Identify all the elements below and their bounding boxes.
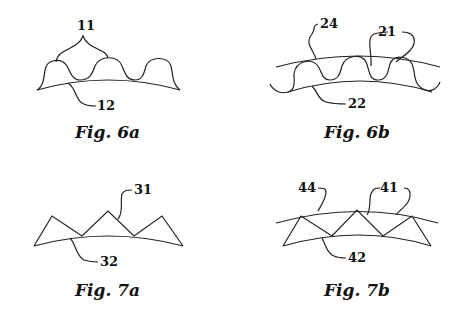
caption-fig-7a: Fig. 7a [74,280,140,300]
label-21: 21 [378,24,396,39]
leader-22 [312,86,346,104]
label-32: 32 [100,254,118,269]
figure-6a: 11 12 Fig. 6a [37,18,180,142]
leader-31 [118,190,132,219]
label-41: 41 [380,180,398,195]
figure-sheet: 11 12 Fig. 6a 24 21 22 Fig. 6b 31 32 Fig… [0,0,458,311]
inner-arc-42 [283,235,431,246]
leader-11 [56,36,108,62]
base-arc-32 [34,236,183,246]
label-11: 11 [77,18,95,33]
caption-fig-7b: Fig. 7b [323,280,390,300]
figure-7b: 44 41 42 Fig. 7b [276,180,438,300]
label-22: 22 [348,96,366,111]
leader-24 [309,24,318,59]
label-42: 42 [348,250,366,265]
leader-42 [322,238,346,258]
label-24: 24 [320,16,338,31]
leader-32 [70,238,98,262]
inner-arc-22 [288,81,432,92]
caption-fig-6b: Fig. 6b [323,122,390,142]
label-12: 12 [97,98,115,113]
leader-12 [68,83,96,106]
leader-44 [318,188,326,211]
caption-fig-6a: Fig. 6a [74,122,140,142]
base-arc-12 [37,80,180,90]
label-31: 31 [134,182,152,197]
outer-arc-24 [276,56,440,67]
label-44: 44 [298,180,316,195]
figure-6b: 24 21 22 Fig. 6b [270,16,440,142]
figure-7a: 31 32 Fig. 7a [34,182,183,300]
